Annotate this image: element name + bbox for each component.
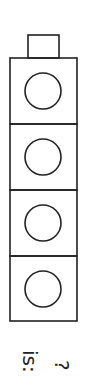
circle-icon bbox=[25, 139, 61, 175]
top-tab bbox=[28, 35, 59, 58]
circle-icon bbox=[25, 271, 61, 307]
box-1 bbox=[10, 124, 77, 190]
circle-icon bbox=[25, 205, 61, 241]
circle-icon bbox=[25, 73, 61, 109]
box-0 bbox=[10, 58, 77, 124]
stacked-boxes-diagram bbox=[0, 0, 90, 376]
is-label: is: bbox=[20, 350, 40, 373]
question-label: ? bbox=[52, 360, 72, 371]
box-3 bbox=[10, 256, 77, 321]
box-2 bbox=[10, 190, 77, 256]
